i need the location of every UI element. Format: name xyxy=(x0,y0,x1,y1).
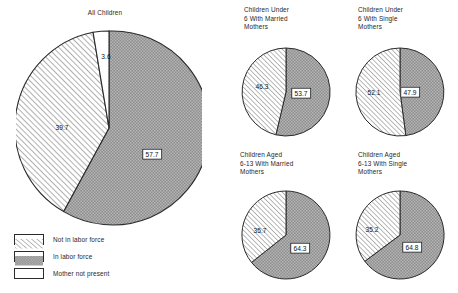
legend-item-not-in-labor-force: Not in labor force xyxy=(14,231,109,248)
pie-under-6-married-svg xyxy=(240,46,332,138)
panel-aged-6-13-married: Children Aged 6-13 With Married Mothers … xyxy=(228,145,338,293)
legend-item-in-labor-force: In labor force xyxy=(14,248,109,265)
legend-swatch-not-in-labor-force xyxy=(14,234,44,246)
slice-label-in-labor-force: 64.3 xyxy=(290,243,310,254)
slice-label-in-labor-force: 47.9 xyxy=(400,87,420,98)
panel-title-all-children: All Children xyxy=(45,9,165,18)
legend-label-in-labor-force: In labor force xyxy=(53,253,92,260)
slice-label-in-labor-force: 57.7 xyxy=(142,149,162,160)
slice-label-not-in-labor-force: 35.2 xyxy=(365,226,378,233)
legend-swatch-in-labor-force xyxy=(14,251,44,263)
panel-under-6-married: Children Under 6 With Married Mothers 53… xyxy=(228,0,338,145)
panel-title-aged-6-13-single: Children Aged 6-13 With Single Mothers xyxy=(358,151,454,177)
panel-title-under-6-single: Children Under 6 With Single Mothers xyxy=(358,6,454,32)
legend-swatch-mother-not-present xyxy=(14,268,44,280)
slice-not-in-labor-force xyxy=(356,48,406,136)
chart-legend: Not in labor force In labor force Mother… xyxy=(14,231,109,282)
slice-label-not-in-labor-force: 39.7 xyxy=(55,124,68,131)
hatch-pattern-icon xyxy=(15,239,43,249)
panel-aged-6-13-single: Children Aged 6-13 With Single Mothers 6… xyxy=(340,145,458,293)
pie-aged-6-13-married-svg xyxy=(240,189,332,281)
panel-title-under-6-married: Children Under 6 With Married Mothers xyxy=(244,6,340,32)
panel-under-6-single: Children Under 6 With Single Mothers 47.… xyxy=(340,0,458,145)
slice-label-not-in-labor-force: 35.7 xyxy=(253,227,266,234)
slice-label-in-labor-force: 64.8 xyxy=(402,242,422,253)
stipple-pattern-icon xyxy=(15,256,43,266)
legend-label-mother-not-present: Mother not present xyxy=(53,270,109,277)
slice-label-not-in-labor-force: 52.1 xyxy=(367,89,380,96)
legend-label-not-in-labor-force: Not in labor force xyxy=(53,236,104,243)
pie-aged-6-13-single xyxy=(354,189,446,281)
slice-not-in-labor-force xyxy=(242,48,286,135)
pie-chart-figure: All Children 57.7 39.7 3.6 Children Unde… xyxy=(0,0,458,293)
pie-aged-6-13-single-svg xyxy=(354,189,446,281)
legend-item-mother-not-present: Mother not present xyxy=(14,265,109,282)
slice-label-in-labor-force: 53.7 xyxy=(291,88,311,99)
panel-title-aged-6-13-married: Children Aged 6-13 With Married Mothers xyxy=(240,151,344,177)
pie-aged-6-13-married xyxy=(240,189,332,281)
slice-label-mother-not-present: 3.6 xyxy=(101,53,110,60)
pie-under-6-married xyxy=(240,46,332,138)
slice-label-not-in-labor-force: 46.3 xyxy=(255,83,268,90)
